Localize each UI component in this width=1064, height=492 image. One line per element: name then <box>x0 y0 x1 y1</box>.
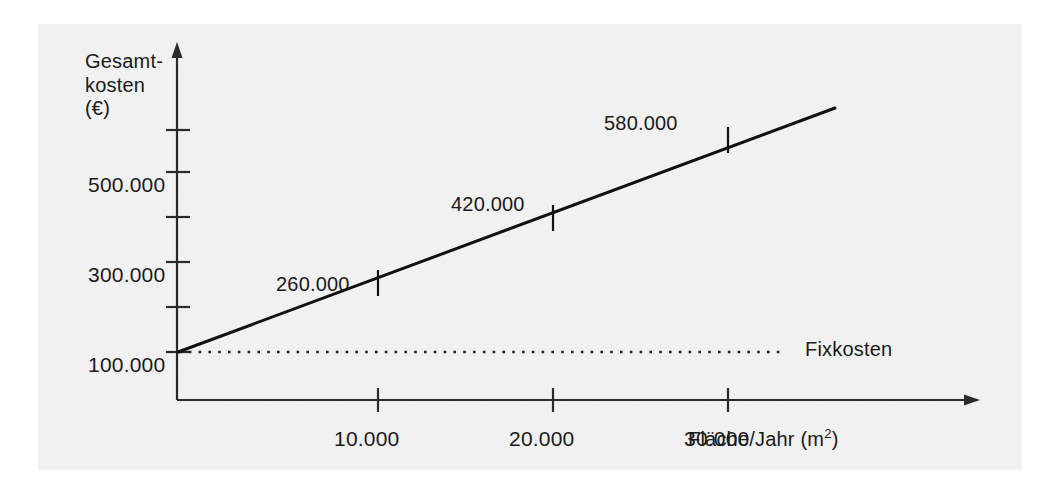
y-axis-title-line-3: (€) <box>85 97 163 121</box>
y-tick-label-500000: 500.000 <box>88 173 165 198</box>
data-label-580000: 580.000 <box>604 112 678 136</box>
data-label-420000: 420.000 <box>451 193 525 217</box>
x-axis-title-end: ) <box>832 428 839 450</box>
x-axis-title-superscript: 2 <box>824 426 832 441</box>
y-tick-label-100000: 100.000 <box>88 353 165 378</box>
chart-plot-area <box>38 24 1022 470</box>
y-axis-title-line-1: Gesamt- <box>85 50 163 74</box>
y-axis-title: Gesamt- kosten (€) <box>85 50 163 121</box>
y-tick-label-300000: 300.000 <box>88 263 165 288</box>
x-tick-label-20000: 20.000 <box>509 427 574 452</box>
x-axis-title: Fläche/Jahr (m2) <box>688 428 839 452</box>
x-tick-label-10000: 10.000 <box>334 427 399 452</box>
x-axis-arrow-icon <box>964 395 980 406</box>
series-gesamtkosten-line <box>178 108 835 352</box>
y-axis-arrow-icon <box>172 42 183 58</box>
chart-figure: Gesamt- kosten (€) 100.000 300.000 500.0… <box>38 24 1022 470</box>
series-label-fixkosten: Fixkosten <box>805 338 892 362</box>
y-axis-title-line-2: kosten <box>85 74 163 98</box>
data-label-260000: 260.000 <box>276 273 350 297</box>
x-axis-title-main: Fläche/Jahr (m <box>688 428 824 450</box>
